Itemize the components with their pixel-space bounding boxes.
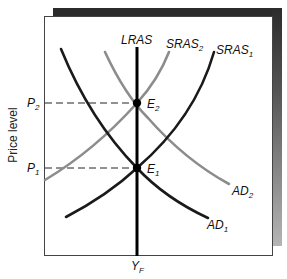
equilibrium-point-e1	[133, 164, 141, 172]
sras2-label: SRAS2	[166, 37, 204, 53]
lras-label: LRAS	[121, 33, 152, 47]
sras1-label: SRAS1	[216, 43, 253, 59]
p2-tick-label: P2	[27, 96, 40, 112]
equilibrium-point-e2	[133, 99, 141, 107]
diagram-canvas: LRAS SRAS2 SRAS1 AD2 AD1 E2 E1 P2 P1 YF …	[0, 0, 287, 279]
ad-as-diagram: LRAS SRAS2 SRAS1 AD2 AD1 E2 E1 P2 P1 YF …	[0, 0, 287, 279]
yf-tick-label: YF	[131, 259, 145, 275]
y-axis-label: Price level	[6, 107, 20, 162]
p1-tick-label: P1	[27, 161, 39, 177]
